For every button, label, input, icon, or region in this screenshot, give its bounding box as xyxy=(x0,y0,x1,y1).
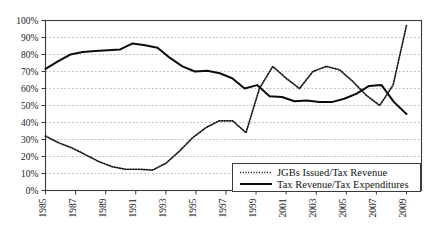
x-tick-label: 2005 xyxy=(338,198,348,217)
x-tick-label: 1987 xyxy=(68,198,78,217)
x-tick-label: 2007 xyxy=(368,198,378,217)
y-tick-label: 100% xyxy=(16,16,38,26)
x-tick-label: 1997 xyxy=(218,198,228,217)
x-tick-label: 1993 xyxy=(158,198,168,217)
chart-container: 0%10%20%30%40%50%60%70%80%90%100% 198519… xyxy=(0,0,438,242)
y-tick-label: 0% xyxy=(26,186,39,196)
y-tick-label: 40% xyxy=(21,118,39,128)
legend-label-jgbs: JGBs Issued/Tax Revenue xyxy=(277,167,387,178)
y-tick-label: 60% xyxy=(21,84,39,94)
y-tick-label: 20% xyxy=(21,152,39,162)
y-tick-label: 50% xyxy=(21,101,39,111)
y-tick-label: 80% xyxy=(21,50,39,60)
y-tick-label: 70% xyxy=(21,67,39,77)
y-tick-label: 10% xyxy=(21,169,39,179)
chart-legend: JGBs Issued/Tax Revenue Tax Revenue/Tax … xyxy=(233,164,421,192)
x-tick-label: 1985 xyxy=(38,198,48,217)
line-chart: 0%10%20%30%40%50%60%70%80%90%100% 198519… xyxy=(0,0,438,242)
x-tick-label: 1999 xyxy=(248,198,258,217)
y-tick-label: 90% xyxy=(21,33,39,43)
x-tick-label: 1995 xyxy=(188,198,198,217)
legend-label-tax-revenue: Tax Revenue/Tax Expenditures xyxy=(277,179,409,190)
x-tick-label: 2003 xyxy=(308,198,318,217)
x-tick-label: 2001 xyxy=(278,198,288,217)
x-tick-label: 1991 xyxy=(128,198,138,217)
y-tick-label: 30% xyxy=(21,135,39,145)
x-tick-label: 1989 xyxy=(98,198,108,217)
x-tick-label: 2009 xyxy=(398,198,408,217)
